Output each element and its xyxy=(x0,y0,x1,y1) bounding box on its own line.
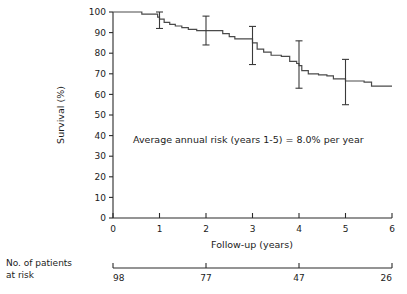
chart-canvas: 0102030405060708090100 0123456 Average a… xyxy=(0,0,407,294)
risk-axis-values: 98774726 xyxy=(113,273,392,283)
error-bar xyxy=(296,41,303,88)
y-tick-label: 0 xyxy=(100,213,106,223)
y-tick-label: 60 xyxy=(95,90,107,100)
y-axis-tick-labels: 0102030405060708090100 xyxy=(89,7,106,223)
error-bars-group xyxy=(156,12,349,105)
y-tick-label: 30 xyxy=(95,151,107,161)
x-axis-title: Follow-up (years) xyxy=(211,239,293,250)
y-tick-label: 10 xyxy=(95,193,107,203)
y-tick-label: 80 xyxy=(95,48,107,58)
y-tick-label: 70 xyxy=(95,69,107,79)
error-bar xyxy=(249,26,256,64)
x-tick-label: 1 xyxy=(157,224,163,234)
x-axis-ticks xyxy=(113,213,392,218)
y-axis-ticks xyxy=(109,12,113,218)
risk-table-label-line2: at risk xyxy=(6,270,35,280)
y-tick-label: 90 xyxy=(95,28,107,38)
risk-value: 77 xyxy=(200,273,211,283)
survival-chart-figure: 0102030405060708090100 0123456 Average a… xyxy=(0,0,407,294)
average-annual-risk-annotation: Average annual risk (years 1-5) = 8.0% p… xyxy=(133,134,364,145)
y-tick-label: 100 xyxy=(89,7,106,17)
y-axis-title: Survival (%) xyxy=(55,86,66,144)
y-tick-label: 20 xyxy=(95,172,107,182)
x-tick-label: 3 xyxy=(250,224,256,234)
risk-table-label-line1: No. of patients xyxy=(6,258,72,268)
error-bar xyxy=(342,59,349,104)
x-tick-label: 4 xyxy=(296,224,302,234)
risk-axis-ticks xyxy=(113,263,392,268)
risk-value: 98 xyxy=(113,273,125,283)
risk-value: 47 xyxy=(293,273,304,283)
x-tick-label: 6 xyxy=(389,224,395,234)
y-tick-label: 50 xyxy=(95,110,107,120)
x-tick-label: 2 xyxy=(203,224,209,234)
y-tick-label: 40 xyxy=(95,131,107,141)
x-tick-label: 5 xyxy=(343,224,349,234)
x-axis-tick-labels: 0123456 xyxy=(110,224,395,234)
risk-value: 26 xyxy=(381,273,393,283)
x-tick-label: 0 xyxy=(110,224,116,234)
